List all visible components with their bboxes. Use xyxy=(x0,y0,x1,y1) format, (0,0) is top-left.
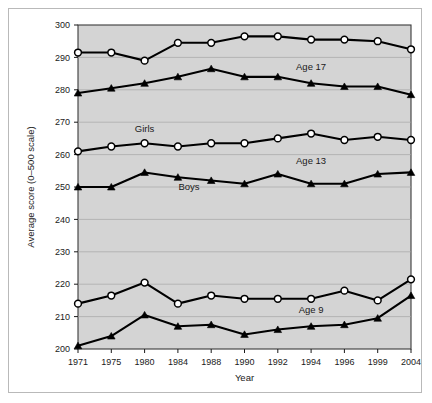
annotation-age-17: Age 17 xyxy=(296,61,326,72)
x-tick-label: 1988 xyxy=(201,357,221,367)
data-point-marker xyxy=(175,143,182,150)
x-tick-label: 1984 xyxy=(168,357,188,367)
y-tick-label: 250 xyxy=(55,182,70,192)
data-point-marker xyxy=(241,140,248,147)
x-tick-label: 2004 xyxy=(401,357,421,367)
y-tick-label: 210 xyxy=(55,312,70,322)
x-tick-label: 1999 xyxy=(368,357,388,367)
annotation-girls: Girls xyxy=(135,123,155,134)
y-tick-label: 220 xyxy=(55,279,70,289)
data-point-marker xyxy=(75,148,82,155)
annotation-boys: Boys xyxy=(178,181,199,192)
x-tick-label: 1992 xyxy=(268,357,288,367)
data-point-marker xyxy=(75,300,82,307)
x-tick-label: 1971 xyxy=(68,357,88,367)
y-tick-label: 240 xyxy=(55,215,70,225)
data-point-marker xyxy=(374,38,381,45)
data-point-marker xyxy=(274,33,281,40)
data-point-marker xyxy=(208,39,215,46)
y-tick-label: 290 xyxy=(55,53,70,63)
annotation-age-13: Age 13 xyxy=(296,155,326,166)
y-tick-label: 270 xyxy=(55,117,70,127)
data-point-marker xyxy=(374,297,381,304)
data-point-marker xyxy=(341,287,348,294)
data-point-marker xyxy=(208,292,215,299)
y-tick-label: 200 xyxy=(55,344,70,354)
data-point-marker xyxy=(141,57,148,64)
data-point-marker xyxy=(108,292,115,299)
y-axis-title: Average score (0–500 scale) xyxy=(25,126,36,247)
data-point-marker xyxy=(308,130,315,137)
y-tick-label: 230 xyxy=(55,247,70,257)
data-point-marker xyxy=(274,135,281,142)
data-point-marker xyxy=(241,33,248,40)
data-point-marker xyxy=(374,133,381,140)
x-tick-label: 1980 xyxy=(135,357,155,367)
data-point-marker xyxy=(175,39,182,46)
annotation-age-9: Age 9 xyxy=(299,304,324,315)
data-point-marker xyxy=(408,137,415,144)
data-point-marker xyxy=(75,49,82,56)
data-point-marker xyxy=(108,49,115,56)
x-tick-label: 1990 xyxy=(234,357,254,367)
x-tick-label: 1994 xyxy=(301,357,321,367)
x-axis-ticks xyxy=(78,349,411,353)
y-axis-tick-labels: 200210220230240250260270280290300 xyxy=(55,20,70,354)
x-axis-title: Year xyxy=(235,372,254,383)
x-tick-label: 1996 xyxy=(334,357,354,367)
y-tick-label: 280 xyxy=(55,85,70,95)
data-point-marker xyxy=(341,137,348,144)
data-point-marker xyxy=(208,140,215,147)
data-point-marker xyxy=(408,46,415,53)
data-point-marker xyxy=(341,36,348,43)
y-tick-label: 260 xyxy=(55,150,70,160)
data-point-marker xyxy=(108,143,115,150)
data-point-marker xyxy=(141,279,148,286)
data-point-marker xyxy=(308,36,315,43)
x-tick-label: 1975 xyxy=(101,357,121,367)
data-point-marker xyxy=(141,140,148,147)
data-point-marker xyxy=(241,295,248,302)
line-chart: 200210220230240250260270280290300 197119… xyxy=(0,0,432,403)
data-point-marker xyxy=(408,276,415,283)
x-axis-tick-labels: 1971197519801984198819901992199419961999… xyxy=(68,357,421,367)
data-point-marker xyxy=(308,295,315,302)
data-point-marker xyxy=(175,300,182,307)
y-tick-label: 300 xyxy=(55,20,70,30)
chart-figure: 200210220230240250260270280290300 197119… xyxy=(0,0,432,403)
data-point-marker xyxy=(274,295,281,302)
